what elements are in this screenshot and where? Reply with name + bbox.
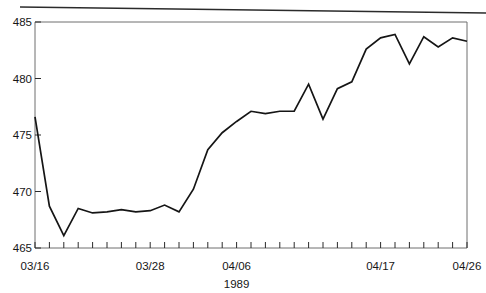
y-axis-labels: 465 470 475 480 485: [13, 16, 32, 254]
y-tick-label-475: 475: [13, 129, 32, 141]
y-tick-label-480: 480: [13, 73, 32, 85]
x-axis-ticks: [35, 242, 467, 248]
x-tick-label-second: 03/28: [136, 260, 165, 272]
x-tick-label-third: 04/06: [222, 260, 251, 272]
y-tick-label-485: 485: [13, 16, 32, 28]
line-chart: 465 470 475 480 485 03/16 03/28 04/06 04…: [0, 0, 486, 293]
x-axis-title: 1989: [224, 278, 250, 290]
chart-container: 465 470 475 480 485 03/16 03/28 04/06 04…: [0, 0, 486, 293]
x-tick-label-fourth: 04/17: [366, 260, 395, 272]
x-tick-label-start: 03/16: [21, 260, 50, 272]
plot-frame: [35, 22, 467, 248]
x-tick-label-end: 04/26: [453, 260, 482, 272]
y-tick-label-465: 465: [13, 242, 32, 254]
data-series-line: [35, 34, 467, 235]
top-rule-artifact: [20, 7, 486, 13]
y-tick-label-470: 470: [13, 186, 32, 198]
x-axis-labels: 03/16 03/28 04/06 04/17 04/26: [21, 260, 482, 272]
